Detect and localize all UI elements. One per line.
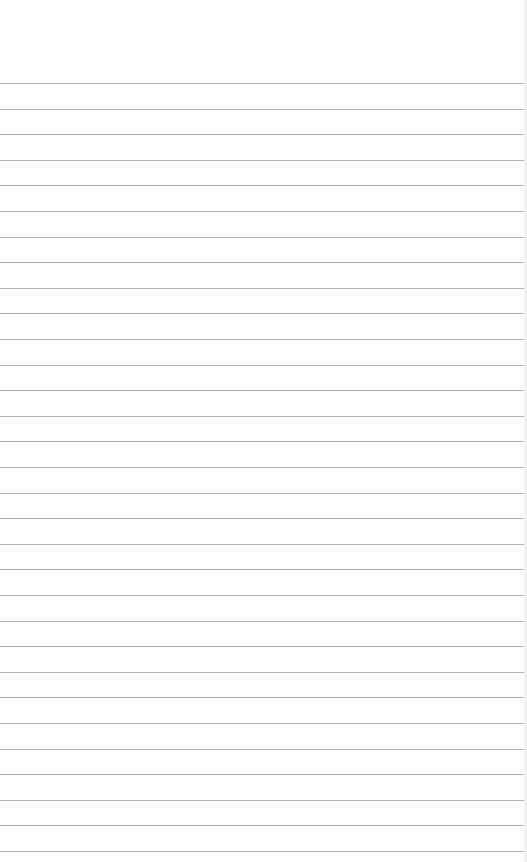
ruled-line — [0, 851, 524, 852]
ruled-line — [0, 365, 524, 366]
ruled-line — [0, 544, 524, 545]
ruled-line — [0, 825, 524, 826]
ruled-line — [0, 518, 524, 519]
ruled-line — [0, 493, 524, 494]
ruled-line — [0, 109, 524, 110]
ruled-line — [0, 416, 524, 417]
lined-paper-page — [0, 0, 527, 862]
ruled-line — [0, 595, 524, 596]
ruled-line — [0, 774, 524, 775]
ruled-line — [0, 185, 524, 186]
ruled-line — [0, 441, 524, 442]
ruled-line — [0, 313, 524, 314]
ruled-line — [0, 160, 524, 161]
ruled-line — [0, 211, 524, 212]
ruled-line — [0, 800, 524, 801]
ruled-line — [0, 134, 524, 135]
ruled-line — [0, 569, 524, 570]
ruled-line — [0, 697, 524, 698]
ruled-line — [0, 339, 524, 340]
ruled-line — [0, 672, 524, 673]
ruled-line — [0, 390, 524, 391]
ruled-line — [0, 621, 524, 622]
top-margin-area — [0, 0, 527, 82]
ruled-line — [0, 83, 524, 84]
ruled-line — [0, 262, 524, 263]
ruled-line — [0, 646, 524, 647]
ruled-line — [0, 749, 524, 750]
ruled-line — [0, 237, 524, 238]
ruled-line — [0, 723, 524, 724]
ruled-line — [0, 288, 524, 289]
ruled-line — [0, 467, 524, 468]
